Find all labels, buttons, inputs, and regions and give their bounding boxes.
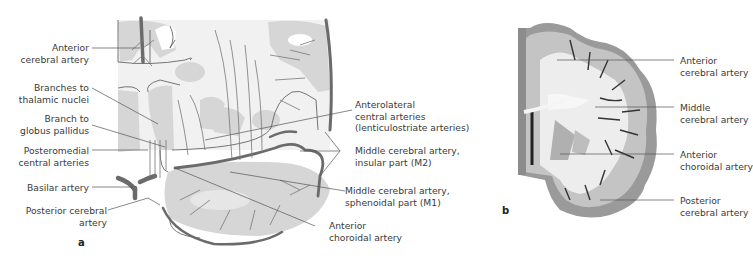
label-a-posterior-cerebral-artery: Posterior cerebral artery bbox=[26, 205, 107, 228]
label-line: Basilar artery bbox=[27, 182, 89, 194]
label-line: cerebral artery bbox=[680, 114, 749, 126]
label-a-mca-insular-part: Middle cerebral artery, insular part (M2… bbox=[355, 145, 460, 168]
label-a-anterior-choroidal-artery: Anterior choroidal artery bbox=[329, 220, 402, 243]
label-a-anterolateral-central-arteries: Anterolateral central arteries (lenticul… bbox=[355, 99, 469, 134]
label-a-branch-to-globus-pallidus: Branch to globus pallidus bbox=[20, 113, 89, 136]
label-line: Posteromedial bbox=[19, 145, 89, 157]
label-line: Anterior bbox=[680, 55, 749, 67]
label-line: (lenticulostriate arteries) bbox=[355, 122, 469, 134]
label-b-posterior-cerebral-artery: Posterior cerebral artery bbox=[680, 195, 749, 218]
label-line: central arteries bbox=[355, 111, 469, 123]
label-line: cerebral artery bbox=[680, 67, 749, 79]
label-line: Middle bbox=[680, 102, 749, 114]
label-line: Posterior bbox=[680, 195, 749, 207]
label-b-anterior-choroidal-artery: Anterior choroidal artery bbox=[680, 149, 753, 172]
label-line: sphenoidal part (M1) bbox=[345, 197, 450, 209]
label-a-mca-sphenoidal-part: Middle cerebral artery, sphenoidal part … bbox=[345, 185, 450, 208]
label-line: cerebral artery bbox=[680, 207, 749, 219]
label-line: insular part (M2) bbox=[355, 157, 460, 169]
label-line: Anterior bbox=[329, 220, 402, 232]
label-a-anterior-cerebral-artery: Anterior cerebral artery bbox=[20, 42, 89, 65]
label-line: Branches to bbox=[19, 82, 89, 94]
label-line: Middle cerebral artery, bbox=[345, 185, 450, 197]
panel-letter-a: a bbox=[78, 237, 85, 248]
label-line: Anterior bbox=[20, 42, 89, 54]
label-line: Branch to bbox=[20, 113, 89, 125]
label-line: globus pallidus bbox=[20, 125, 89, 137]
label-line: Anterior bbox=[680, 149, 753, 161]
label-line: Posterior cerebral bbox=[26, 205, 107, 217]
label-line: cerebral artery bbox=[20, 54, 89, 66]
label-line: choroidal artery bbox=[680, 161, 753, 173]
panel-letter-b: b bbox=[502, 205, 509, 216]
label-b-middle-cerebral-artery: Middle cerebral artery bbox=[680, 102, 749, 125]
label-line: thalamic nuclei bbox=[19, 94, 89, 106]
label-a-basilar-artery: Basilar artery bbox=[27, 182, 89, 194]
label-line: artery bbox=[26, 217, 107, 229]
label-line: choroidal artery bbox=[329, 232, 402, 244]
label-line: Anterolateral bbox=[355, 99, 469, 111]
label-b-anterior-cerebral-artery: Anterior cerebral artery bbox=[680, 55, 749, 78]
label-line: Middle cerebral artery, bbox=[355, 145, 460, 157]
label-a-branches-to-thalamic-nuclei: Branches to thalamic nuclei bbox=[19, 82, 89, 105]
label-line: central arteries bbox=[19, 157, 89, 169]
label-a-posteromedial-central-arteries: Posteromedial central arteries bbox=[19, 145, 89, 168]
